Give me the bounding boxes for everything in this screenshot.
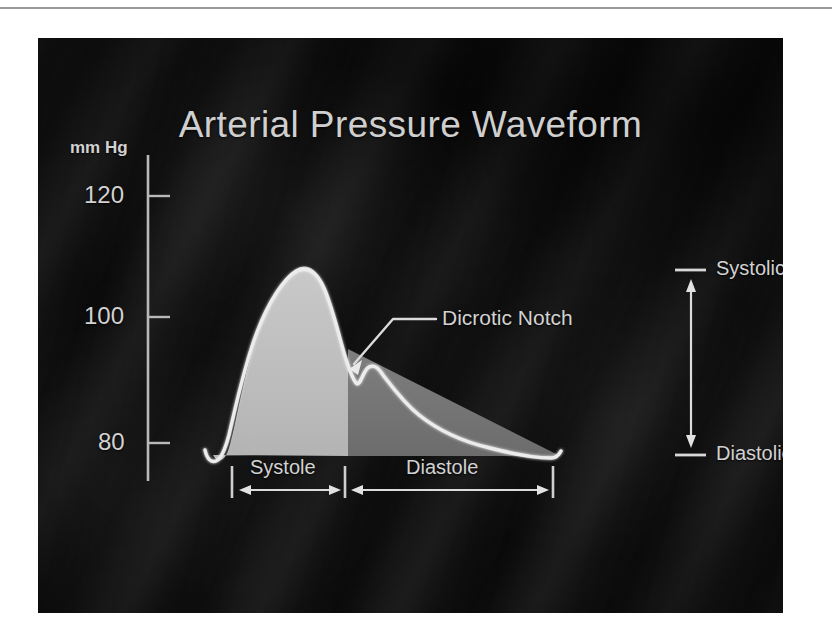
figure-panel: Arterial Pressure Waveform <box>38 38 783 613</box>
waveform-chart <box>38 38 783 613</box>
systole-span-arrow <box>239 485 341 495</box>
page-root: Arterial Pressure Waveform <box>0 0 832 644</box>
y-axis-unit-label: mm Hg <box>70 138 128 158</box>
pressure-level-markers <box>675 270 706 455</box>
y-axis <box>148 155 170 481</box>
top-divider <box>0 7 832 9</box>
waveform-fill-diastole <box>338 344 560 457</box>
dicrotic-notch-label: Dicrotic Notch <box>442 306 573 330</box>
y-tick-label-80: 80 <box>98 428 125 456</box>
waveform-fill-systole <box>213 267 354 461</box>
diastole-span-arrow <box>351 485 549 495</box>
systolic-level-label: Systolic <box>716 257 783 280</box>
systole-span-label: Systole <box>250 456 316 479</box>
diastolic-level-label: Diastolic <box>716 442 783 465</box>
diastole-span-label: Diastole <box>406 456 478 479</box>
y-tick-label-100: 100 <box>84 302 124 330</box>
y-tick-label-120: 120 <box>84 181 124 209</box>
